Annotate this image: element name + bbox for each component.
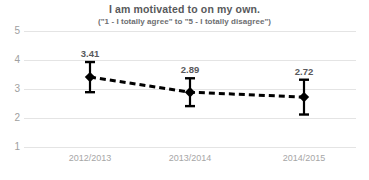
- gridline-3: [24, 89, 356, 90]
- x-tick-label-2013-2014: 2013/2014: [150, 153, 230, 164]
- y-tick-label-3: 3: [0, 84, 20, 94]
- gridline-5: [24, 31, 356, 32]
- data-label-0: 3.41: [81, 48, 100, 59]
- chart-title-block: I am motivated to on my own. ("1 - I tot…: [0, 3, 369, 27]
- gridline-1: [24, 147, 356, 148]
- gridline-4: [24, 60, 356, 61]
- y-tick-label-1: 1: [0, 142, 20, 152]
- chart-subtitle: ("1 - I totally agree" to "5 - I totally…: [0, 16, 369, 27]
- x-tick-label-2012-2013: 2012/2013: [50, 153, 130, 164]
- x-tick-label-2014-2015: 2014/2015: [264, 153, 344, 164]
- gridline-2: [24, 118, 356, 119]
- y-tick-label-2: 2: [0, 113, 20, 123]
- data-label-1: 2.89: [181, 64, 200, 75]
- plot-area: [24, 31, 356, 147]
- data-label-2: 2.72: [295, 66, 314, 77]
- y-tick-label-4: 4: [0, 55, 20, 65]
- y-tick-label-5: 5: [0, 26, 20, 36]
- chart-container: I am motivated to on my own. ("1 - I tot…: [0, 0, 369, 180]
- chart-title: I am motivated to on my own.: [0, 3, 369, 16]
